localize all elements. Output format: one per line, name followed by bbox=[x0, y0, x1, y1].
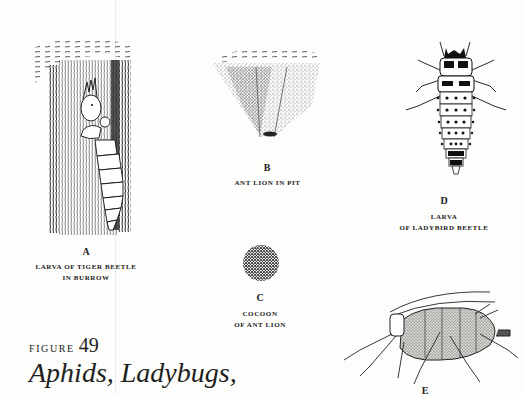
label-c: C bbox=[250, 292, 270, 303]
ant-lion-pit-icon bbox=[212, 45, 322, 145]
aphid-icon bbox=[340, 290, 523, 386]
figure-label: FIGURE49 bbox=[29, 334, 99, 357]
ant-lion-cocoon-icon bbox=[239, 241, 283, 285]
caption-c-line2: OF ANT LION bbox=[210, 320, 310, 330]
label-b: B bbox=[257, 162, 277, 173]
label-d: D bbox=[434, 195, 454, 206]
caption-c-line1: COCOON bbox=[210, 309, 310, 319]
tiger-beetle-larva-burrow-icon bbox=[25, 30, 135, 240]
book-page: A LARVA OF TIGER BEETLE IN BURROW B ANT … bbox=[0, 0, 523, 394]
caption-a-line1: LARVA OF TIGER BEETLE bbox=[20, 262, 152, 272]
caption-d-line1: LARVA bbox=[394, 212, 494, 222]
figure-word: FIGURE bbox=[29, 343, 75, 354]
caption-b: ANT LION IN PIT bbox=[210, 178, 325, 188]
caption-d-line2: OF LADYBIRD BEETLE bbox=[384, 223, 504, 233]
figure-title: Aphids, Ladybugs, bbox=[29, 357, 237, 389]
ladybird-larva-icon bbox=[402, 40, 512, 190]
label-a: A bbox=[76, 246, 96, 257]
label-e: E bbox=[415, 385, 435, 394]
caption-a-line2: IN BURROW bbox=[20, 273, 152, 283]
figure-number: 49 bbox=[79, 334, 99, 356]
